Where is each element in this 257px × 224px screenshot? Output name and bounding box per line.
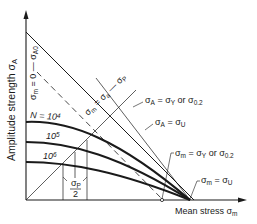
curve-label-1e4: N = 104 [30, 110, 61, 122]
svg-text:σP: σP [71, 178, 81, 189]
axes [24, 10, 248, 203]
curve-label-1e6: 106 [43, 151, 57, 161]
x-axis-label: Mean stress σm [175, 206, 238, 217]
diagonal-line [26, 90, 136, 200]
leader-ult-mean [190, 181, 197, 199]
curve-label-1e5: 105 [46, 131, 60, 141]
ultimate-mean-label: σm = σU [201, 175, 233, 186]
sigma-m-zero-label: σm = 0 — σA0 [28, 46, 39, 100]
yield-amplitude-label: σA = σY or σ0.2 [145, 95, 203, 106]
yield-mean-label: σm = σY or σ0.2 [175, 148, 234, 159]
leader-ult-amp [145, 124, 153, 130]
sigma-p-bracket-l [63, 177, 67, 181]
x-axis-arrow-icon [238, 198, 247, 203]
svg-text:2: 2 [73, 189, 78, 199]
sigma-p-half-label: σP 2 [70, 178, 81, 199]
leader-yield-amp [133, 102, 143, 107]
fatigue-strength-diagram: Amplitude strength σA σm = 0 — σA0 σm = … [0, 0, 257, 224]
y-axis-arrow-icon [24, 10, 29, 19]
y-axis-label: Amplitude strength σA [5, 59, 19, 161]
sigma-p-bracket-r [83, 177, 87, 181]
ultimate-amplitude-label: σA = σU [155, 117, 186, 128]
